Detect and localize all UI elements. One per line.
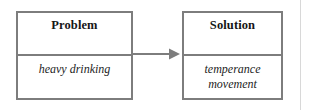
- problem-solution-diagram: Problem heavy drinking Solution temperan…: [0, 0, 309, 110]
- solution-node-body-label: temperance movement: [205, 62, 261, 92]
- right-arrow-icon: [133, 44, 182, 64]
- problem-node-body-label: heavy drinking: [39, 62, 111, 77]
- connector-arrow: [133, 44, 182, 64]
- problem-node[interactable]: Problem heavy drinking: [16, 11, 133, 100]
- solution-node-header: Solution: [184, 13, 281, 56]
- solution-node-header-label: Solution: [210, 19, 255, 33]
- problem-node-header: Problem: [18, 13, 131, 56]
- solution-node-body: temperance movement: [184, 56, 281, 98]
- solution-node[interactable]: Solution temperance movement: [182, 11, 283, 100]
- page-edge-rule: [300, 0, 301, 110]
- problem-node-body: heavy drinking: [18, 56, 131, 98]
- problem-node-header-label: Problem: [51, 19, 97, 33]
